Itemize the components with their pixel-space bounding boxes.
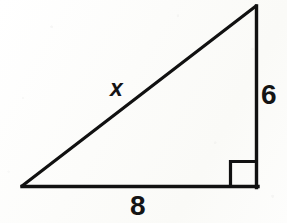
right-angle-marker-icon	[231, 162, 257, 187]
vertical-leg-label: 6	[261, 81, 277, 109]
horizontal-leg-label: 8	[130, 192, 146, 220]
hypotenuse-label: x	[110, 77, 122, 100]
right-triangle-figure: x 6 8	[0, 0, 287, 223]
hypotenuse-line	[22, 6, 256, 186]
